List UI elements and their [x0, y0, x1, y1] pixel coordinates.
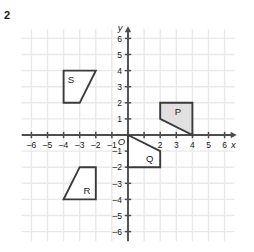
x-axis-arrowhead: [231, 132, 237, 138]
x-tick-label: 6: [222, 140, 227, 150]
x-tick-label: –4: [59, 140, 69, 150]
shape-label-q: Q: [146, 153, 153, 164]
coordinate-plane-svg: –6–5–4–3–2–123456–6–5–4–3–2–1123456 xyO …: [0, 0, 254, 252]
x-tick-label: –3: [75, 140, 85, 150]
x-axis-label: x: [230, 139, 237, 150]
x-tick-label: –6: [27, 140, 37, 150]
y-tick-label: –6: [113, 227, 123, 237]
y-tick-label: 5: [117, 50, 122, 60]
y-tick-label: 2: [117, 98, 122, 108]
y-axis-arrowhead: [125, 26, 131, 32]
x-tick-label: 2: [158, 140, 163, 150]
y-tick-label: 1: [117, 114, 122, 124]
axes: [22, 26, 237, 241]
shape-label-s: S: [68, 74, 74, 85]
x-tick-label: 3: [174, 140, 179, 150]
y-tick-label: 3: [117, 82, 122, 92]
shape-label-p: P: [175, 106, 181, 117]
x-tick-label: 4: [190, 140, 195, 150]
y-tick-label: 6: [117, 34, 122, 44]
y-tick-label: –5: [113, 211, 123, 221]
y-tick-label: 4: [117, 66, 122, 76]
y-tick-label: –4: [113, 195, 123, 205]
y-tick-label: –2: [113, 162, 123, 172]
coordinate-plane-figure: –6–5–4–3–2–123456–6–5–4–3–2–1123456 xyO …: [0, 0, 254, 252]
shape-label-r: R: [84, 185, 91, 196]
x-tick-label: –2: [91, 140, 101, 150]
origin-label: O: [118, 136, 126, 147]
x-tick-label: 5: [206, 140, 211, 150]
y-tick-label: –3: [113, 179, 123, 189]
x-tick-label: –5: [43, 140, 53, 150]
y-tick-label: –1: [113, 146, 123, 156]
y-axis-label: y: [117, 22, 124, 33]
